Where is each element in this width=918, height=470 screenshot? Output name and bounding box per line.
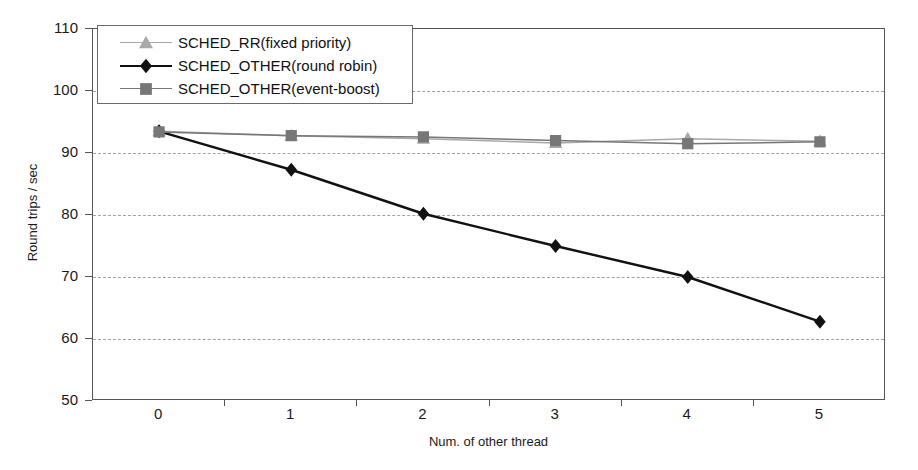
x-axis-tick-label: 3 bbox=[525, 406, 585, 421]
x-axis-tick-label: 4 bbox=[657, 406, 717, 421]
chart-container: 5060708090100110 Round trips / sec 01234… bbox=[0, 0, 918, 470]
legend-item[interactable]: SCHED_OTHER(round robin) bbox=[98, 54, 412, 77]
x-axis-tick-label: 1 bbox=[260, 406, 320, 421]
legend-marker-triangle-icon bbox=[133, 34, 159, 52]
y-axis-tick-mark bbox=[85, 214, 92, 215]
y-axis-tick-mark bbox=[85, 90, 92, 91]
series-group bbox=[152, 124, 826, 148]
x-axis-tick-label: 0 bbox=[128, 406, 188, 421]
legend-marker-square-icon bbox=[133, 80, 159, 98]
data-point-marker bbox=[286, 163, 297, 177]
x-axis-tick-mark bbox=[621, 400, 622, 406]
data-point-marker bbox=[682, 138, 693, 149]
legend-label: SCHED_RR(fixed priority) bbox=[178, 35, 351, 51]
y-axis-tick-label: 110 bbox=[32, 20, 78, 35]
data-point-marker bbox=[550, 135, 561, 146]
legend-item[interactable]: SCHED_OTHER(event-boost) bbox=[98, 77, 412, 100]
data-point-marker bbox=[418, 207, 429, 221]
legend-label: SCHED_OTHER(event-boost) bbox=[178, 81, 380, 97]
y-axis-tick-mark bbox=[85, 152, 92, 153]
data-point-marker bbox=[550, 239, 561, 253]
series-line bbox=[159, 131, 820, 143]
data-point-marker bbox=[139, 35, 153, 48]
data-point-marker bbox=[140, 58, 152, 73]
data-point-marker bbox=[814, 136, 825, 147]
x-axis-tick-mark bbox=[753, 400, 754, 406]
legend-swatch bbox=[120, 58, 172, 74]
x-axis-title: Num. of other thread bbox=[92, 434, 885, 449]
x-axis-tick-mark bbox=[489, 400, 490, 406]
y-axis-tick-label: 100 bbox=[32, 82, 78, 97]
y-axis-tick-label: 50 bbox=[32, 392, 78, 407]
legend-swatch bbox=[120, 81, 172, 97]
series-line bbox=[159, 132, 820, 144]
data-point-marker bbox=[153, 126, 164, 137]
x-axis-tick-mark bbox=[224, 400, 225, 406]
y-axis-tick-mark bbox=[85, 338, 92, 339]
legend-marker-diamond-icon bbox=[133, 57, 159, 75]
data-point-marker bbox=[286, 130, 297, 141]
data-point-marker bbox=[814, 315, 825, 329]
y-axis-tick-mark bbox=[85, 28, 92, 29]
data-point-marker bbox=[140, 83, 152, 95]
legend: SCHED_RR(fixed priority)SCHED_OTHER(roun… bbox=[97, 25, 413, 104]
data-point-marker bbox=[418, 131, 429, 142]
x-axis-tick-mark bbox=[356, 400, 357, 406]
legend-swatch bbox=[120, 35, 172, 51]
x-axis-tick-label: 5 bbox=[789, 406, 849, 421]
y-axis-tick-label: 60 bbox=[32, 330, 78, 345]
series-group bbox=[153, 124, 825, 328]
y-axis-title: Round trips / sec bbox=[25, 118, 40, 308]
y-axis-tick-mark bbox=[85, 400, 92, 401]
x-axis-tick-label: 2 bbox=[392, 406, 452, 421]
legend-label: SCHED_OTHER(round robin) bbox=[178, 58, 377, 74]
legend-item[interactable]: SCHED_RR(fixed priority) bbox=[98, 31, 412, 54]
legend-item-list: SCHED_RR(fixed priority)SCHED_OTHER(roun… bbox=[98, 31, 412, 100]
y-axis-tick-mark bbox=[85, 276, 92, 277]
data-point-marker bbox=[682, 270, 693, 284]
series-group bbox=[153, 126, 825, 149]
series-line bbox=[159, 131, 820, 321]
